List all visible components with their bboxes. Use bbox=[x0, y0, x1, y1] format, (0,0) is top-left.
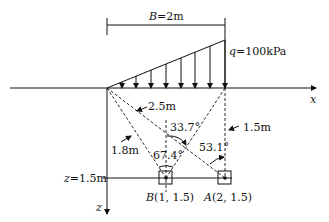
point-a: A(2, 1.5) bbox=[203, 171, 252, 204]
x-axis-label: x bbox=[310, 93, 317, 106]
angle-53-1: 53.1° bbox=[199, 141, 229, 154]
dist-1-5: 1.5m bbox=[243, 121, 271, 134]
svg-text:z=1.5m: z=1.5m bbox=[63, 172, 108, 185]
z-axis: z bbox=[95, 88, 107, 214]
angle-67-4: 67.4° bbox=[153, 149, 183, 162]
dist-1-8: 1.8m bbox=[111, 144, 139, 157]
dist-2-5: 2.5m bbox=[148, 100, 176, 113]
svg-text:A(2, 1.5): A(2, 1.5) bbox=[203, 191, 252, 204]
svg-text:B=2m: B=2m bbox=[148, 10, 184, 23]
depth-val: =1.5m bbox=[70, 172, 108, 185]
point-b: B(1, 1.5) bbox=[145, 171, 194, 204]
triangular-load: q=100kPa bbox=[107, 40, 287, 88]
width-val: =2m bbox=[157, 10, 184, 23]
load-val: =100kPa bbox=[236, 45, 287, 58]
width-var: B bbox=[148, 10, 157, 23]
depth-line: z=1.5m bbox=[63, 172, 232, 185]
svg-text:B(1, 1.5): B(1, 1.5) bbox=[145, 191, 194, 204]
svg-text:q=100kPa: q=100kPa bbox=[229, 45, 287, 58]
angle-33-7: 33.7° bbox=[170, 121, 200, 134]
stress-diagram: B=2m q=100kPa x z z=1.5m 2.5m bbox=[0, 0, 329, 222]
load-var: q bbox=[229, 45, 236, 58]
z-axis-label: z bbox=[95, 201, 102, 214]
